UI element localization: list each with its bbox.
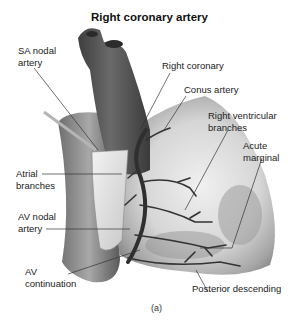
label-av-continuation: AV continuation: [25, 266, 76, 290]
label-line: Acute: [243, 140, 279, 152]
label-line: branches: [208, 122, 277, 134]
label-acute-marginal: Acute marginal: [243, 140, 279, 164]
label-line: branches: [16, 180, 55, 192]
label-line: AV: [25, 266, 76, 278]
figure-caption: (a): [151, 303, 162, 313]
label-right-ventricular-branches: Right ventricular branches: [208, 110, 277, 134]
label-line: marginal: [243, 152, 279, 164]
label-sa-nodal-artery: SA nodal artery: [18, 45, 56, 69]
label-line: AV nodal: [18, 211, 56, 223]
label-av-nodal-artery: AV nodal artery: [18, 211, 56, 235]
label-line: artery: [18, 57, 56, 69]
label-right-coronary: Right coronary: [162, 60, 224, 72]
label-posterior-descending: Posterior descending: [192, 283, 281, 295]
label-atrial-branches: Atrial branches: [16, 168, 55, 192]
label-line: SA nodal: [18, 45, 56, 57]
label-line: Atrial: [16, 168, 55, 180]
label-line: Right ventricular: [208, 110, 277, 122]
label-line: continuation: [25, 278, 76, 290]
label-line: artery: [18, 223, 56, 235]
label-conus-artery: Conus artery: [184, 84, 238, 96]
